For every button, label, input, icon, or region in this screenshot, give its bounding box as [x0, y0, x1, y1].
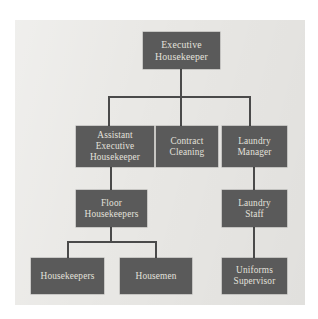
node-floor-housekeepers-line2: Housekeepers — [78, 209, 145, 220]
org-chart: Executive Housekeeper Assistant Executiv… — [0, 0, 318, 319]
node-uniforms-supervisor-line2: Supervisor — [224, 276, 285, 287]
node-housekeepers-line1: Housekeepers — [33, 271, 102, 282]
node-contract-cleaning[interactable]: Contract Cleaning — [156, 126, 218, 167]
node-floor-housekeepers[interactable]: Floor Housekeepers — [76, 190, 147, 227]
connector-to-laundry-staff — [253, 166, 255, 190]
node-assistant-executive-housekeeper-line2: Executive — [78, 141, 152, 152]
connector-to-floor-housekeepers — [110, 166, 112, 190]
node-uniforms-supervisor[interactable]: Uniforms Supervisor — [222, 258, 287, 294]
node-laundry-staff[interactable]: Laundry Staff — [222, 190, 287, 227]
connector-floor-housekeepers-bus — [67, 241, 156, 243]
node-floor-housekeepers-line1: Floor — [78, 198, 145, 209]
node-executive-housekeeper[interactable]: Executive Housekeeper — [143, 32, 220, 69]
node-executive-housekeeper-line1: Executive — [145, 39, 218, 51]
node-assistant-executive-housekeeper-line3: Housekeeper — [78, 152, 152, 163]
node-assistant-executive-housekeeper-line1: Assistant — [78, 130, 152, 141]
connector-to-housekeepers — [67, 241, 69, 259]
node-contract-cleaning-line1: Contract — [158, 136, 216, 147]
connector-to-uniforms-supervisor — [253, 226, 255, 259]
node-laundry-manager-line2: Manager — [224, 147, 285, 158]
node-laundry-staff-line2: Staff — [224, 209, 285, 220]
node-assistant-executive-housekeeper[interactable]: Assistant Executive Housekeeper — [76, 126, 154, 167]
node-laundry-manager[interactable]: Laundry Manager — [222, 126, 287, 167]
connector-to-assistant-executive-housekeeper — [108, 96, 110, 126]
connector-to-laundry-manager — [249, 96, 251, 126]
node-housemen[interactable]: Housemen — [120, 258, 192, 294]
connector-root-stem — [180, 68, 182, 97]
connector-to-housemen — [155, 241, 157, 259]
node-laundry-manager-line1: Laundry — [224, 136, 285, 147]
connector-to-contract-cleaning — [180, 96, 182, 126]
node-uniforms-supervisor-line1: Uniforms — [224, 265, 285, 276]
node-contract-cleaning-line2: Cleaning — [158, 147, 216, 158]
node-laundry-staff-line1: Laundry — [224, 198, 285, 209]
node-housemen-line1: Housemen — [122, 271, 190, 282]
node-housekeepers[interactable]: Housekeepers — [31, 258, 104, 294]
node-executive-housekeeper-line2: Housekeeper — [145, 51, 218, 63]
